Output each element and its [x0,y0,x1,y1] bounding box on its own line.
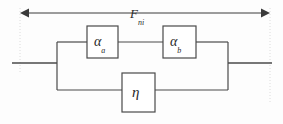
force-subscript: ni [138,18,144,27]
eta-symbol: η [132,84,139,100]
force-label: Fni [130,4,144,24]
force-arrowhead-right [261,9,270,18]
diagram-canvas: Fni αa αb η [0,0,283,124]
force-arrowhead-left [20,9,29,18]
element-label-eta: η [132,83,139,101]
alpha-a-subscript: a [101,46,105,55]
element-label-alpha-b: αb [170,34,181,52]
force-dimension-arrow [20,9,270,18]
alpha-b-subscript: b [177,46,181,55]
element-label-alpha-a: αa [94,34,105,52]
force-symbol: F [130,6,138,21]
